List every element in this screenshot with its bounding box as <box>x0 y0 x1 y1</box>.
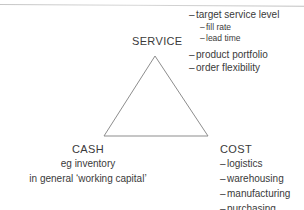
dash-bullet-icon: – <box>189 8 196 22</box>
list-item-label: product portfolio <box>196 49 268 60</box>
dash-bullet-icon: – <box>189 61 196 75</box>
list-item-label: logistics <box>227 158 263 169</box>
dash-bullet-icon: – <box>220 171 227 186</box>
list-item: –warehousing <box>220 171 304 186</box>
list-item: –manufacturing <box>220 186 304 201</box>
dash-bullet-icon: – <box>220 186 227 201</box>
cash-label: CASH <box>6 143 170 156</box>
service-vertex: SERVICE <box>132 31 183 49</box>
list-item: –purchasing <box>220 201 304 210</box>
cost-attribute-list: –logistics –warehousing –manufacturing –… <box>220 156 304 210</box>
cash-vertex: CASH eg inventory in general ‘working ca… <box>6 143 170 186</box>
list-item: –order flexibility <box>189 61 304 75</box>
cost-label: COST <box>220 143 304 156</box>
list-item-label: manufacturing <box>227 188 290 199</box>
service-label: SERVICE <box>132 35 183 47</box>
cash-detail-line: eg inventory <box>6 156 170 171</box>
cost-vertex: COST –logistics –warehousing –manufactur… <box>220 143 304 210</box>
list-item-label: fill rate <box>206 22 231 32</box>
list-item-label: order flexibility <box>196 62 260 73</box>
list-item: –product portfolio <box>189 48 304 62</box>
service-attribute-list: –target service level –fill rate –lead t… <box>189 8 304 75</box>
list-item-label: target service level <box>196 9 279 20</box>
list-item: –logistics <box>220 156 304 171</box>
list-item-label: warehousing <box>227 173 284 184</box>
list-item-label: purchasing <box>227 203 276 210</box>
dash-bullet-icon: – <box>220 201 227 210</box>
dash-bullet-icon: – <box>220 156 227 171</box>
cash-detail-line: in general ‘working capital’ <box>6 171 170 186</box>
list-item-label: lead time <box>206 33 241 43</box>
diagram-canvas: SERVICE –target service level –fill rate… <box>0 0 304 210</box>
dash-bullet-icon: – <box>189 48 196 62</box>
list-item: –target service level <box>189 8 304 22</box>
list-item: –fill rate <box>189 22 304 34</box>
list-item: –lead time <box>189 33 304 45</box>
